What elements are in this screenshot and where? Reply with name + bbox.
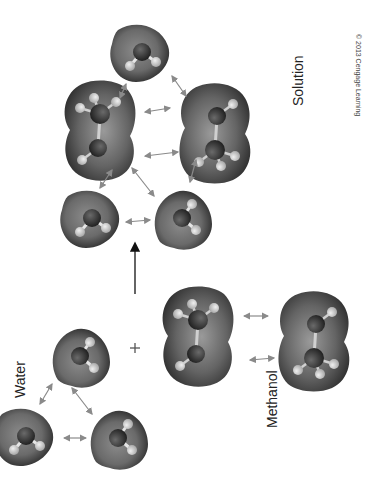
- water-molecule: [0, 409, 53, 466]
- water-label: Water: [12, 361, 28, 398]
- methanol-molecule: [279, 291, 350, 391]
- copyright-text: © 2013 Cengage Learning: [355, 34, 362, 116]
- plus-icon: [130, 343, 140, 353]
- hydrogen-bond-arrows: [244, 316, 274, 360]
- methanol-group: [163, 287, 350, 392]
- methanol-molecule: [180, 83, 251, 183]
- solution-label: Solution: [290, 55, 306, 106]
- water-molecule: [91, 411, 148, 470]
- water-molecule: [53, 329, 110, 388]
- diagram-canvas: [0, 0, 366, 478]
- methanol-molecule: [65, 81, 136, 181]
- water-molecule: [60, 191, 119, 248]
- water-molecule: [110, 25, 169, 82]
- methanol-molecule: [163, 287, 234, 387]
- solution-group: [60, 25, 250, 250]
- methanol-label: Methanol: [264, 370, 280, 428]
- water-molecule: [155, 191, 212, 250]
- water-group: [0, 329, 148, 470]
